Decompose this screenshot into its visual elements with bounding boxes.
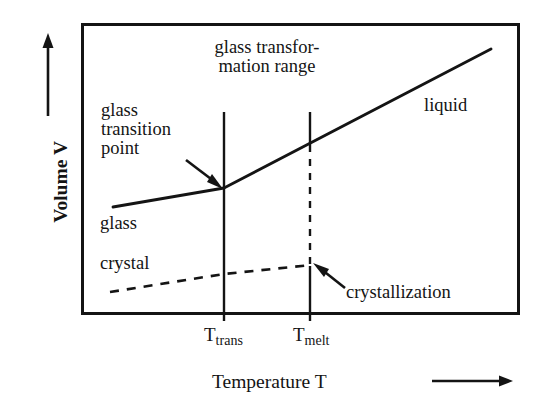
arrow-glass-transition-point (186, 160, 223, 189)
title-line-1: glass transfor- (215, 37, 320, 57)
tick-ttrans-base: T (204, 324, 216, 345)
tick-label-ttrans: Ttrans (204, 325, 243, 344)
x-axis-arrow-icon (432, 376, 513, 387)
tick-tmelt-base: T (293, 324, 305, 345)
title-line-2: mation range (218, 56, 315, 76)
title-glass-transformation-range: glass transfor-mation range (182, 38, 352, 76)
figure-root: glass transfor-mation range glass transi… (0, 0, 546, 416)
y-axis-arrow-icon (43, 33, 54, 116)
axis-label-volume: Volume V (51, 107, 71, 257)
axis-label-temperature: Temperature T (212, 372, 327, 392)
tick-ttrans-sub: trans (216, 333, 243, 348)
tick-label-tmelt: Tmelt (293, 325, 330, 344)
label-crystal: crystal (100, 254, 149, 273)
label-liquid: liquid (424, 96, 467, 115)
curve-glass-branch (113, 188, 224, 207)
tick-tmelt-sub: melt (305, 333, 330, 348)
arrow-crystallization (313, 263, 345, 288)
label-glass-transition-point: glass transition point (101, 101, 171, 158)
label-glass: glass (100, 214, 137, 233)
label-crystallization: crystallization (346, 283, 451, 302)
